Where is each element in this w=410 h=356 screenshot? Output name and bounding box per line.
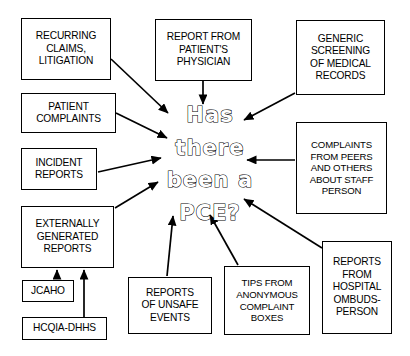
pce-detection-diagram: RECURRING CLAIMS, LITIGATION REPORT FROM… [0,0,410,356]
node-generic-screening-of-medical-records[interactable]: GENERIC SCREENING OF MEDICAL RECORDS [296,20,385,95]
arrow-patient-complaints-to-center [116,113,167,138]
node-complaints-from-peers[interactable]: COMPLAINTS FROM PEERS AND OTHERS ABOUT S… [296,122,387,214]
node-tips-from-anonymous-complaint-boxes[interactable]: TIPS FROM ANONYMOUS COMPLAINT BOXES [224,266,310,335]
node-label: TIPS FROM ANONYMOUS COMPLAINT BOXES [234,277,300,323]
arrow-externally-generated-to-center [115,182,158,208]
arrow-incident-reports-to-center [98,158,161,172]
node-label: RECURRING CLAIMS, LITIGATION [34,30,98,67]
node-label: REPORT FROM PATIENT'S PHYSICIAN [165,31,242,68]
node-label: HCQIA-DHHS [31,322,98,334]
node-hcqia-dhhs[interactable]: HCQIA-DHHS [22,317,107,340]
node-label: GENERIC SCREENING OF MEDICAL RECORDS [308,33,373,83]
node-label: PATIENT COMPLAINTS [34,101,103,126]
node-label: EXTERNALLY GENERATED REPORTS [34,218,102,255]
center-line-4: PCE? [179,198,241,228]
node-patient-complaints[interactable]: PATIENT COMPLAINTS [21,93,116,133]
node-label: COMPLAINTS FROM PEERS AND OTHERS ABOUT S… [308,139,376,197]
node-label: REPORTS FROM HOSPITAL OMBUDS- PERSON [331,256,383,318]
node-incident-reports[interactable]: INCIDENT REPORTS [21,148,97,190]
node-report-from-patients-physician[interactable]: REPORT FROM PATIENT'S PHYSICIAN [155,19,252,81]
center-line-2: there [175,133,244,163]
center-line-3: been a [167,165,254,195]
arrow-generic-screening-to-center [244,93,295,120]
center-question-text: Has there been a PCE? [155,100,265,228]
center-line-1: Has [186,100,234,130]
node-label: INCIDENT REPORTS [33,157,85,182]
arrow-tips-to-center [210,215,238,265]
node-jcaho[interactable]: JCAHO [22,280,74,302]
node-recurring-claims-litigation[interactable]: RECURRING CLAIMS, LITIGATION [21,18,111,80]
node-label: JCAHO [29,285,67,297]
arrow-unsafe-events-to-center [167,216,173,276]
node-label: REPORTS OF UNSAFE EVENTS [140,287,201,324]
node-reports-from-hospital-ombudsperson[interactable]: REPORTS FROM HOSPITAL OMBUDS- PERSON [322,241,392,334]
node-reports-of-unsafe-events[interactable]: REPORTS OF UNSAFE EVENTS [128,277,212,334]
node-externally-generated-reports[interactable]: EXTERNALLY GENERATED REPORTS [21,206,114,268]
